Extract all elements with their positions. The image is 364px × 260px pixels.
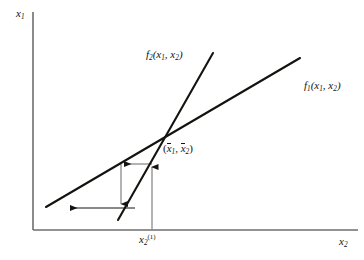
x2-bar: x bbox=[181, 143, 186, 154]
x1-bar: x bbox=[167, 143, 172, 154]
figure-canvas: x1 x2 f2(x1, x2) f1(x1, x2) (x1, x2) x2(… bbox=[0, 0, 364, 260]
curve-f1 bbox=[46, 58, 300, 207]
equilibrium-point-label: (x1, x2) bbox=[163, 143, 193, 154]
y-axis-label: x1 bbox=[16, 8, 25, 19]
curve-f2 bbox=[118, 53, 213, 220]
function-curves bbox=[46, 53, 300, 220]
x-axis-label: x2 bbox=[339, 236, 348, 247]
diagram-svg bbox=[0, 0, 364, 260]
cobweb-staircase bbox=[70, 164, 152, 230]
curve-label-f2: f2(x1, x2) bbox=[146, 49, 183, 60]
axis-lines bbox=[33, 12, 358, 230]
curve-label-f1: f1(x1, x2) bbox=[304, 80, 341, 91]
x-axis-tick-label: x2(1) bbox=[139, 234, 155, 245]
